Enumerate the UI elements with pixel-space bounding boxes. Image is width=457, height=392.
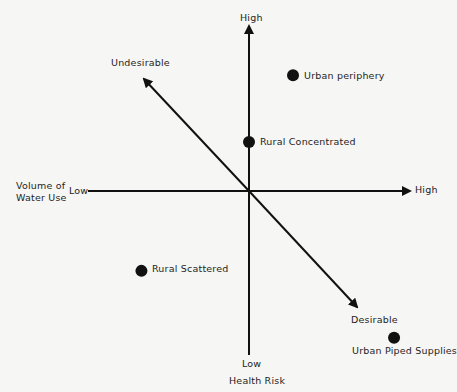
- desirable-label: Desirable: [351, 314, 398, 326]
- horizontal-axis-title-line1: Volume of: [16, 180, 65, 192]
- horizontal-axis-high-label: High: [415, 184, 438, 196]
- point-label-rural-scattered: Rural Scattered: [152, 263, 229, 275]
- horizontal-axis-low-label: Low: [69, 185, 88, 197]
- vertical-axis-low-label: Low: [242, 358, 261, 370]
- point-label-urban-periphery: Urban periphery: [304, 70, 385, 82]
- data-point-urban-piped-supplies: [388, 332, 400, 344]
- point-label-rural-concentrated: Rural Concentrated: [260, 136, 356, 148]
- data-point-rural-scattered: [135, 265, 147, 277]
- vertical-axis-title: Health Risk: [229, 375, 285, 387]
- diagonal-arrow-undesirable: [144, 79, 249, 191]
- data-point-urban-periphery: [287, 69, 299, 81]
- data-point-rural-concentrated: [243, 136, 255, 148]
- horizontal-axis-title-line2: Water Use: [16, 192, 67, 204]
- undesirable-label: Undesirable: [111, 57, 170, 69]
- vertical-axis-high-label: High: [240, 12, 263, 24]
- point-label-urban-piped-supplies: Urban Piped Supplies: [352, 345, 457, 357]
- diagonal-arrow-desirable: [249, 191, 357, 307]
